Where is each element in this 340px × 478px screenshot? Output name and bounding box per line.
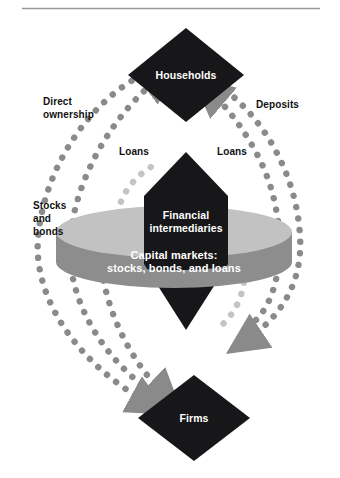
diagram-canvas: Financial intermediaries Capital markets… xyxy=(0,0,340,478)
flow-label-loans-left: Loans xyxy=(119,146,149,157)
cylinder-label-line1: Capital markets: xyxy=(130,249,217,261)
cylinder-label-line2: stocks, bonds, and loans xyxy=(107,262,241,274)
flow-label-deposits: Deposits xyxy=(256,99,299,110)
flow-label-direct-ownership-line2: ownership xyxy=(43,109,94,120)
flow-label-stocks-and-bonds-line1: Stocks xyxy=(33,200,67,211)
flow-label-loans-right: Loans xyxy=(217,146,247,157)
node-label-households: Households xyxy=(155,69,216,81)
node-financial-intermediaries xyxy=(144,152,228,330)
node-label-firms: Firms xyxy=(179,412,208,424)
flow-label-direct-ownership-line1: Direct xyxy=(43,96,73,107)
node-label-financial-intermediaries-line1: Financial xyxy=(163,209,209,221)
flow-label-stocks-and-bonds-line3: bonds xyxy=(33,226,64,237)
node-label-financial-intermediaries-line2: intermediaries xyxy=(149,222,222,234)
financial-flows-diagram: Financial intermediaries Capital markets… xyxy=(0,0,340,478)
flow-label-stocks-and-bonds-line2: and xyxy=(33,213,51,224)
